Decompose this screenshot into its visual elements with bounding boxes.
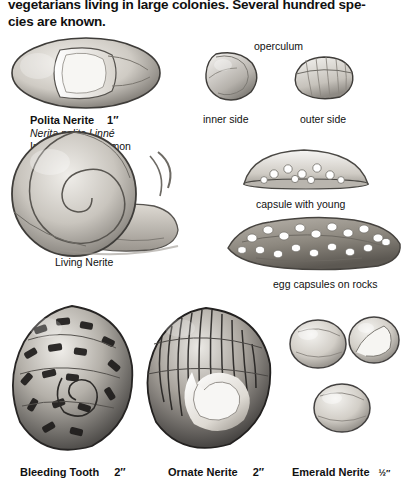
operculum-inner-illustration [199, 48, 265, 106]
living-nerite-illustration [0, 126, 210, 266]
operculum-inner-label: inner side [203, 113, 249, 126]
ornate-nerite-illustration [140, 306, 274, 456]
operculum-outer-illustration [288, 52, 358, 104]
bleeding-tooth-caption: Bleeding Tooth 2″ [20, 466, 126, 479]
intro-line-2: cies are known. [8, 13, 400, 30]
polita-nerite-size: 1″ [107, 114, 118, 126]
egg-capsules-on-rocks-label: egg capsules on rocks [273, 278, 377, 291]
intro-line-1: vegetarians living in large colonies. Se… [8, 0, 400, 13]
egg-capsules-on-rocks-illustration [222, 212, 405, 274]
capsule-with-young-label: capsule with young [256, 198, 345, 211]
bleeding-tooth-name: Bleeding Tooth [20, 466, 99, 478]
operculum-outer-label: outer side [300, 113, 346, 126]
polita-nerite-name: Polita Nerite [30, 114, 94, 126]
bleeding-tooth-size: 2″ [114, 466, 125, 478]
living-nerite-label: Living Nerite [55, 256, 113, 269]
ornate-nerite-name: Ornate Nerite [168, 466, 238, 478]
page-root: vegetarians living in large colonies. Se… [0, 0, 405, 486]
emerald-nerite-size: ½″ [379, 468, 391, 478]
emerald-nerite-caption: Emerald Nerite ½″ [292, 466, 390, 480]
polita-nerite-shell-illustration [8, 36, 184, 110]
emerald-nerite-name: Emerald Nerite [292, 466, 370, 478]
ornate-nerite-caption: Ornate Nerite 2″ [168, 466, 264, 479]
bleeding-tooth-illustration [8, 304, 136, 456]
emerald-nerite-illustration [286, 312, 402, 442]
capsule-with-young-illustration [240, 144, 372, 192]
ornate-nerite-size: 2″ [253, 466, 264, 478]
intro-paragraph: vegetarians living in large colonies. Se… [8, 0, 400, 30]
